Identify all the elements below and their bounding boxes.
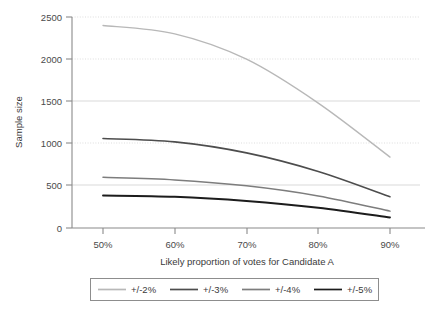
sample-size-line-chart: 2500 2000 1500 1000 500 0 Sample size 50… — [0, 0, 437, 312]
y-tick-label-2000: 2000 — [41, 54, 62, 65]
series-line-3 — [103, 139, 390, 197]
x-tick-label-70: 70% — [237, 239, 257, 250]
series-line-5 — [103, 196, 390, 218]
x-tick-label-80: 80% — [308, 239, 328, 250]
legend-label-0: +/-2% — [131, 284, 157, 295]
x-tick-label-50: 50% — [93, 239, 113, 250]
x-axis-title: Likely proportion of votes for Candidate… — [160, 256, 334, 267]
grid-lines — [72, 17, 420, 185]
y-tick-label-2500: 2500 — [41, 12, 62, 23]
legend-label-3: +/-5% — [347, 284, 373, 295]
y-tick-label-1000: 1000 — [41, 138, 62, 149]
x-tick-label-90: 90% — [380, 239, 400, 250]
y-axis-title: Sample size — [13, 96, 24, 148]
series-layer — [103, 25, 390, 217]
x-axis: 50% 60% 70% 80% 90% Likely proportion of… — [72, 228, 425, 267]
y-tick-label-500: 500 — [46, 180, 62, 191]
legend-label-1: +/-3% — [203, 284, 229, 295]
y-axis: 2500 2000 1500 1000 500 0 Sample size — [13, 12, 72, 234]
y-tick-label-1500: 1500 — [41, 96, 62, 107]
y-tick-label-0: 0 — [57, 223, 62, 234]
x-tick-label-60: 60% — [165, 239, 185, 250]
series-line-2 — [103, 25, 390, 157]
legend: +/-2% +/-3% +/-4% +/-5% — [91, 279, 379, 301]
series-line-4 — [103, 177, 390, 211]
legend-label-2: +/-4% — [275, 284, 301, 295]
